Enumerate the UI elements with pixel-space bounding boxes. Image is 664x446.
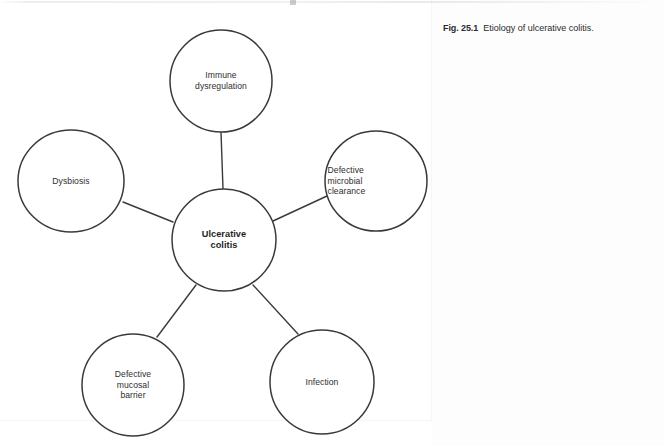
node-circle-defective-mucosal-barrier <box>82 334 184 436</box>
connector-center-immune <box>221 132 223 189</box>
connector-center-infection <box>253 285 298 334</box>
right-panel-background <box>432 0 664 446</box>
connector-center-dysbiosis <box>123 202 173 222</box>
node-circle-immune-dysregulation <box>170 30 272 132</box>
node-circle-ulcerative-colitis <box>172 189 276 291</box>
figure-page: Immune dysregulationDysbiosisDefective m… <box>0 0 664 446</box>
figure-caption: Fig. 25.1 Etiology of ulcerative colitis… <box>443 22 653 34</box>
etiology-diagram <box>0 0 432 446</box>
figure-caption-text: Etiology of ulcerative colitis. <box>483 23 594 33</box>
node-circles <box>18 30 427 436</box>
connector-center-clearance <box>273 196 327 221</box>
figure-number: Fig. 25.1 <box>443 23 478 33</box>
node-circle-dysbiosis <box>18 130 124 232</box>
node-circle-infection <box>270 330 374 434</box>
connector-center-barrier <box>157 285 196 337</box>
node-circle-defective-microbial-clearance <box>325 131 427 231</box>
